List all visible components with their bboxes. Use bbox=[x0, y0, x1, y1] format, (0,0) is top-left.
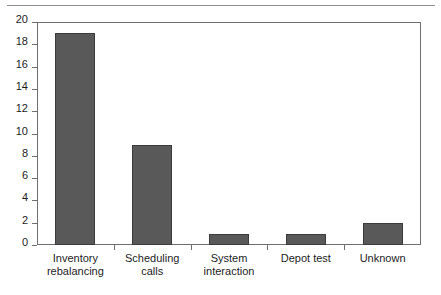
bar bbox=[209, 234, 249, 245]
y-axis-tick-label: 10 bbox=[16, 126, 28, 137]
x-axis-category-label-line: Inventory bbox=[37, 252, 114, 265]
y-axis-tick-label: 16 bbox=[16, 59, 28, 70]
bar bbox=[286, 234, 326, 245]
x-axis-category-label-line: interaction bbox=[191, 265, 268, 278]
y-axis-tick-label: 6 bbox=[22, 170, 28, 181]
x-axis-tick-mark bbox=[344, 245, 345, 250]
x-axis-tick-mark bbox=[114, 245, 115, 250]
x-axis-category-label-line: calls bbox=[114, 265, 191, 278]
y-axis-tick-label: 20 bbox=[16, 14, 28, 25]
y-axis-tick-label: 18 bbox=[16, 36, 28, 47]
y-axis-tick-mark bbox=[32, 178, 37, 179]
y-axis-tick-label: 2 bbox=[22, 215, 28, 226]
y-axis-tick-mark bbox=[32, 111, 37, 112]
x-axis-category-label-line: rebalancing bbox=[37, 265, 114, 278]
x-axis-tick-mark bbox=[267, 245, 268, 250]
x-axis-category-label: Schedulingcalls bbox=[114, 252, 191, 278]
top-horizontal-rule bbox=[7, 5, 435, 6]
x-axis-category-label: Inventoryrebalancing bbox=[37, 252, 114, 278]
y-axis-tick-mark bbox=[32, 134, 37, 135]
y-axis-tick-label: 4 bbox=[22, 192, 28, 203]
bar bbox=[363, 223, 403, 245]
y-axis-tick-mark bbox=[32, 156, 37, 157]
y-axis-tick-label: 0 bbox=[22, 237, 28, 248]
x-axis-category-label-line: Scheduling bbox=[114, 252, 191, 265]
bar-chart-figure: 02468101214161820 InventoryrebalancingSc… bbox=[0, 0, 441, 295]
y-axis-tick-mark bbox=[32, 89, 37, 90]
y-axis-tick-mark bbox=[32, 200, 37, 201]
y-axis-tick-label: 8 bbox=[22, 148, 28, 159]
x-axis-category-label: Depot test bbox=[267, 252, 344, 265]
bar bbox=[132, 145, 172, 245]
x-axis-category-label: Unknown bbox=[344, 252, 421, 265]
x-axis-category-label-line: Unknown bbox=[344, 252, 421, 265]
x-axis-category-label: Systeminteraction bbox=[191, 252, 268, 278]
y-axis-tick-label: 12 bbox=[16, 103, 28, 114]
y-axis-tick-mark bbox=[32, 22, 37, 23]
y-axis-tick-label: 14 bbox=[16, 81, 28, 92]
y-axis-tick-mark bbox=[32, 67, 37, 68]
x-axis-category-label-line: Depot test bbox=[267, 252, 344, 265]
bar bbox=[55, 33, 95, 245]
y-axis-tick-mark bbox=[32, 245, 37, 246]
x-axis-category-label-line: System bbox=[191, 252, 268, 265]
x-axis-tick-mark bbox=[191, 245, 192, 250]
y-axis-tick-mark bbox=[32, 223, 37, 224]
y-axis-tick-mark bbox=[32, 44, 37, 45]
